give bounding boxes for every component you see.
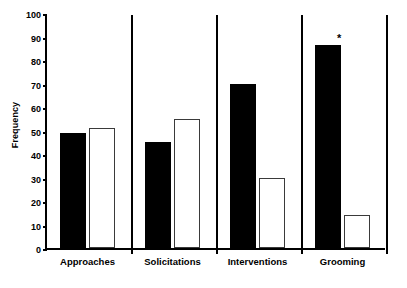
- bar-group: [47, 15, 132, 248]
- bar-open: [259, 178, 285, 249]
- bar-filled: [145, 142, 171, 248]
- y-tick-label: 10: [21, 222, 41, 231]
- bar-filled: [315, 45, 341, 248]
- bar-group: *: [302, 15, 387, 248]
- significance-marker: *: [337, 33, 341, 44]
- y-tick-label: 60: [21, 105, 41, 114]
- bar-group: [132, 15, 217, 248]
- x-axis-label: Approaches: [60, 256, 115, 267]
- bar-filled: [60, 133, 86, 248]
- x-tick-mark: [216, 248, 218, 254]
- y-tick-label: 30: [21, 175, 41, 184]
- plot-area: 0102030405060708090100 *: [45, 15, 385, 250]
- y-tick-mark: [43, 249, 47, 251]
- y-tick-label: 20: [21, 199, 41, 208]
- y-tick-label: 80: [21, 58, 41, 67]
- bar-groups: *: [47, 15, 385, 248]
- y-tick-label: 40: [21, 152, 41, 161]
- y-tick-label: 100: [21, 11, 41, 20]
- y-tick-label: 70: [21, 81, 41, 90]
- bar-group: [217, 15, 302, 248]
- bar-open: [174, 119, 200, 248]
- bar-open: [89, 128, 115, 248]
- y-axis-title: Frequency: [10, 83, 20, 167]
- x-axis-label: Grooming: [320, 256, 365, 267]
- y-tick-label: 50: [21, 128, 41, 137]
- y-tick-label: 0: [21, 246, 41, 255]
- x-tick-mark: [386, 248, 388, 254]
- x-axis-label: Interventions: [228, 256, 288, 267]
- group-separator: [386, 15, 388, 248]
- x-axis-label: Solicitations: [144, 256, 200, 267]
- x-tick-mark: [131, 248, 133, 254]
- bar-open: [344, 215, 370, 248]
- bar-filled: [230, 84, 256, 249]
- x-tick-mark: [301, 248, 303, 254]
- bar-chart: Frequency 0102030405060708090100 * Appro…: [0, 0, 407, 288]
- y-tick-label: 90: [21, 34, 41, 43]
- x-axis-labels: ApproachesSolicitationsInterventionsGroo…: [45, 256, 385, 276]
